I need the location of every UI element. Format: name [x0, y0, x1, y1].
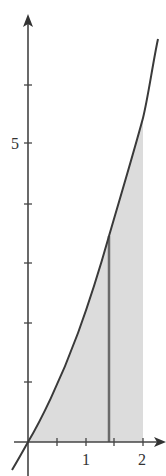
- x-tick-label-1: 1: [82, 451, 90, 468]
- x-tick-label-2: 2: [138, 451, 146, 468]
- y-tick-label-5: 5: [11, 135, 19, 152]
- graph-figure: 5 1 2: [0, 0, 166, 476]
- y-axis: [23, 14, 33, 476]
- shaded-region: [28, 118, 143, 442]
